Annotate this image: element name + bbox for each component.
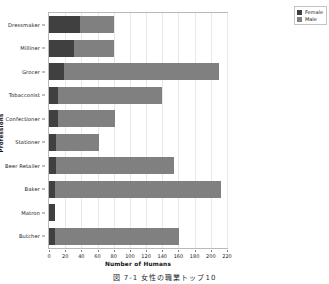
gridline	[227, 13, 228, 248]
legend: FemaleMale	[294, 6, 327, 25]
x-axis-title: Number of Humans	[48, 261, 228, 267]
bar-segment-male[interactable]	[55, 181, 220, 198]
y-axis-tick-mark	[42, 236, 45, 237]
y-axis-tick-mark	[42, 142, 45, 143]
bar-segment-female[interactable]	[49, 16, 80, 33]
bar-segment-male[interactable]	[55, 228, 180, 245]
y-axis-tick-label: Tobacconist	[9, 92, 40, 98]
bar-segment-male[interactable]	[58, 87, 162, 104]
x-axis-tick-label: 120	[141, 253, 151, 259]
x-axis-tick-mark	[146, 250, 147, 252]
x-axis-tick-label: 0	[47, 253, 50, 259]
bar-segment-female[interactable]	[49, 110, 58, 127]
x-axis-tick-mark	[49, 250, 50, 252]
bar-segment-male[interactable]	[64, 63, 219, 80]
bar-segment-male[interactable]	[74, 40, 114, 57]
x-axis-tick-mark	[178, 250, 179, 252]
bar-row[interactable]	[49, 134, 227, 151]
bar-row[interactable]	[49, 204, 227, 221]
bar-segment-female[interactable]	[49, 157, 56, 174]
legend-swatch-icon	[297, 17, 302, 22]
bar-row[interactable]	[49, 40, 227, 57]
legend-label: Male	[305, 16, 317, 22]
y-axis-tick-label: Grocer	[22, 69, 40, 75]
bar-row[interactable]	[49, 63, 227, 80]
y-axis-tick-mark	[42, 165, 45, 166]
bar-row[interactable]	[49, 16, 227, 33]
bar-segment-male[interactable]	[56, 134, 99, 151]
x-axis-tick-label: 80	[111, 253, 117, 259]
y-axis-tick-label: Baker	[25, 186, 40, 192]
bar-segment-female[interactable]	[49, 204, 55, 221]
bar-series-group	[49, 13, 227, 248]
plot-area	[48, 12, 228, 249]
figure: Professions DressmakerMillinerGrocerToba…	[0, 0, 329, 284]
x-axis-tick-mark	[162, 250, 163, 252]
y-axis-tick-mark	[42, 24, 45, 25]
y-axis-tick-label: Beer Retailer	[5, 163, 40, 169]
bar-segment-male[interactable]	[80, 16, 114, 33]
x-axis-tick-mark	[65, 250, 66, 252]
y-axis-tick-mark	[42, 212, 45, 213]
y-axis-tick-mark	[42, 118, 45, 119]
x-axis-tick-mark	[211, 250, 212, 252]
legend-item[interactable]: Female	[297, 9, 323, 15]
y-axis-tick-mark	[42, 48, 45, 49]
bar-segment-female[interactable]	[49, 63, 64, 80]
bar-segment-male[interactable]	[58, 110, 115, 127]
y-axis-tick-label: Stationer	[15, 139, 40, 145]
bar-segment-female[interactable]	[49, 134, 56, 151]
x-axis-tick-mark	[130, 250, 131, 252]
x-axis-tick-label: 140	[157, 253, 167, 259]
bar-segment-male[interactable]	[56, 157, 174, 174]
legend-swatch-icon	[297, 10, 302, 15]
y-axis-tick-label: Milliner	[20, 45, 40, 51]
bar-segment-female[interactable]	[49, 40, 74, 57]
x-axis-tick-mark	[98, 250, 99, 252]
x-axis-tick-mark	[195, 250, 196, 252]
bar-segment-female[interactable]	[49, 87, 58, 104]
y-axis-tick-labels: DressmakerMillinerGrocerTobacconistConfe…	[0, 12, 45, 249]
bar-row[interactable]	[49, 110, 227, 127]
y-axis-tick-mark	[42, 71, 45, 72]
x-axis-tick-label: 100	[125, 253, 135, 259]
x-axis-tick-mark	[114, 250, 115, 252]
legend-item[interactable]: Male	[297, 16, 323, 22]
x-axis-tick-label: 60	[94, 253, 100, 259]
bar-row[interactable]	[49, 87, 227, 104]
y-axis-tick-mark	[42, 95, 45, 96]
y-axis-tick-label: Confectioner	[6, 116, 40, 122]
x-axis-tick-labels: 020406080100120140160180200220	[48, 250, 228, 260]
y-axis-tick-label: Butcher	[19, 233, 40, 239]
x-axis-tick-label: 40	[78, 253, 84, 259]
bar-row[interactable]	[49, 181, 227, 198]
x-axis-tick-mark	[81, 250, 82, 252]
x-axis-tick-label: 180	[190, 253, 200, 259]
y-axis-tick-label: Dressmaker	[8, 22, 40, 28]
y-axis-tick-label: Matron	[21, 210, 40, 216]
bar-row[interactable]	[49, 228, 227, 245]
x-axis-tick-label: 20	[62, 253, 68, 259]
figure-caption: 図 7-1 女性の職業トップ10	[0, 272, 329, 282]
x-axis-tick-mark	[227, 250, 228, 252]
x-axis-tick-label: 160	[174, 253, 184, 259]
legend-label: Female	[305, 9, 323, 15]
y-axis-tick-mark	[42, 189, 45, 190]
x-axis-tick-label: 200	[206, 253, 216, 259]
bar-row[interactable]	[49, 157, 227, 174]
x-axis-tick-label: 220	[222, 253, 232, 259]
